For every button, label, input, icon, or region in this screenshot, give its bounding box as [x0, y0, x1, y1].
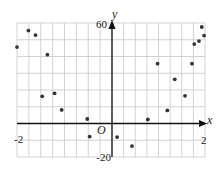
y-axis-label: y [111, 7, 118, 21]
data-points [15, 25, 206, 148]
data-point [130, 144, 134, 148]
data-point [60, 108, 64, 112]
data-point [197, 39, 201, 43]
x-tick-label-min: -2 [14, 133, 23, 145]
y-tick-label-max: 60 [96, 18, 108, 30]
data-point [173, 77, 177, 81]
x-axis-label: x [206, 113, 213, 127]
scatter-chart: 60 -20 -2 2 x y O [0, 0, 221, 171]
data-point [183, 94, 187, 98]
data-point [15, 45, 19, 49]
data-point [200, 25, 204, 29]
data-point [88, 135, 92, 139]
origin-label: O [97, 123, 106, 137]
data-point [27, 29, 31, 33]
data-point [115, 135, 119, 139]
axes [17, 20, 207, 157]
data-point [40, 94, 44, 98]
data-point [34, 33, 38, 37]
data-point [53, 91, 57, 95]
x-tick-label-max: 2 [201, 134, 207, 146]
x-axis-arrow-icon [199, 120, 207, 127]
data-point [156, 62, 160, 66]
data-point [190, 62, 194, 66]
y-axis-arrow-icon [109, 20, 116, 29]
grid-lines [17, 23, 205, 157]
data-point [165, 109, 169, 113]
data-point [85, 117, 89, 121]
axis-labels: 60 -20 -2 2 x y O [14, 7, 213, 163]
y-tick-label-min: -20 [96, 151, 111, 163]
data-point [46, 53, 50, 57]
data-point [202, 34, 206, 38]
data-point [146, 118, 150, 122]
data-point [192, 42, 196, 46]
